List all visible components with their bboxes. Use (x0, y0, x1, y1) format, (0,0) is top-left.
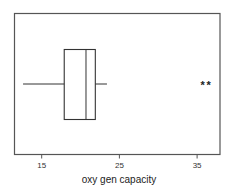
box-plot (23, 50, 107, 120)
x-tick-label: 25 (115, 161, 124, 170)
outlier-asterisk-icon: * (200, 79, 205, 91)
outlier-markers: ** (200, 79, 211, 91)
x-axis-title: oxy gen capacity (82, 174, 157, 185)
boxplot-chart: 152535 ** oxy gen capacity (0, 0, 230, 196)
iqr-box (64, 50, 95, 120)
x-axis-ticks: 152535 (37, 155, 202, 171)
outlier-asterisk-icon: * (207, 79, 212, 91)
x-tick-label: 15 (37, 161, 46, 170)
x-tick-label: 35 (193, 161, 202, 170)
